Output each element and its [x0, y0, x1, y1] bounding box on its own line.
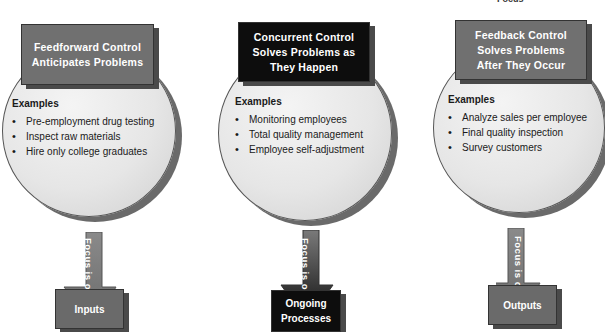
focus-label: Inputs [56, 302, 123, 317]
focus-box-outputs: Outputs [488, 285, 557, 325]
concurrent-title-line-2: Solves Problems as [239, 45, 369, 60]
feedback-title-box: Feedback Control Solves Problems After T… [455, 20, 587, 80]
example-item: Monitoring employees [235, 112, 364, 127]
concurrent-title-line-1: Concurrent Control [239, 30, 369, 45]
concurrent-title-box: Concurrent Control Solves Problems as Th… [238, 22, 370, 82]
feedback-title-line-2: Solves Problems [456, 43, 586, 58]
feedforward-examples: Examples Pre-employment drug testing Ins… [12, 98, 154, 159]
top-fragment-text: Focus [497, 0, 524, 4]
example-item: Inspect raw materials [12, 129, 154, 144]
arrow-label: Focus is on [83, 238, 94, 296]
example-item: Final quality inspection [448, 125, 587, 140]
feedback-title-line-1: Feedback Control [456, 28, 586, 43]
focus-box-ongoing-processes: Ongoing Processes [271, 290, 341, 332]
example-item: Survey customers [448, 140, 587, 155]
arrow-label: Focus is on [300, 238, 311, 296]
concurrent-examples: Examples Monitoring employees Total qual… [235, 96, 364, 157]
examples-header: Examples [448, 94, 587, 105]
feedforward-title-line-1: Feedforward Control [22, 40, 153, 55]
focus-label-line-1: Ongoing [272, 296, 340, 311]
focus-label-line-2: Processes [272, 311, 340, 326]
examples-header: Examples [235, 96, 364, 107]
feedforward-title-box: Feedforward Control Anticipates Problems [21, 24, 154, 85]
examples-header: Examples [12, 98, 154, 109]
example-item: Total quality management [235, 127, 364, 142]
focus-box-inputs: Inputs [55, 289, 124, 329]
example-item: Analyze sales per employee [448, 110, 587, 125]
feedforward-title-line-2: Anticipates Problems [22, 55, 153, 70]
example-item: Hire only college graduates [12, 144, 154, 159]
concurrent-title-line-3: They Happen [239, 60, 369, 75]
feedback-title-line-3: After They Occur [456, 58, 586, 73]
focus-label: Outputs [489, 298, 556, 313]
feedback-examples: Examples Analyze sales per employee Fina… [448, 94, 587, 155]
example-item: Pre-employment drug testing [12, 114, 154, 129]
example-item: Employee self-adjustment [235, 142, 364, 157]
